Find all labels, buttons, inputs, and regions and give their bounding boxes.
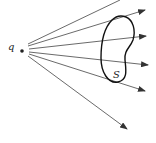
ray-4-arrow [29,52,148,65]
point-label: q [8,41,14,52]
ray-5-arrow [29,54,145,91]
flux-diagram: q S [0,0,156,143]
ray-6-arrow [28,56,127,129]
surface-label: S [113,69,120,80]
ray-2-arrow [28,10,145,46]
point-charge-dot [20,49,24,53]
